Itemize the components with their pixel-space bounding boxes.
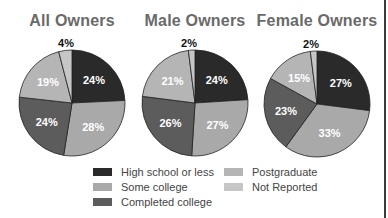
slice-label-completed-college: 26%: [159, 117, 181, 129]
slice-label-postgraduate: 15%: [288, 72, 310, 84]
slice-label-postgraduate: 19%: [37, 76, 59, 88]
legend-label: Postgraduate: [252, 166, 317, 178]
slice-label-completed-college: 23%: [275, 105, 297, 117]
legend-swatch: [93, 198, 112, 206]
legend-item-not-reported: Not Reported: [224, 181, 317, 193]
legend-label: Not Reported: [252, 181, 317, 193]
legend-swatch: [93, 168, 112, 176]
slice-label-not-reported: 2%: [181, 37, 197, 49]
legend-swatch: [224, 183, 243, 191]
pie-female-owners: 27%33%23%15%2%: [264, 38, 370, 157]
legend-item-some-college: Some college: [93, 181, 188, 193]
slice-label-not-reported: 2%: [303, 38, 319, 50]
legend-swatch: [93, 183, 112, 191]
slice-label-high-school: 27%: [330, 77, 352, 89]
slice-label-postgraduate: 21%: [161, 75, 183, 87]
pie-all-owners: 24%28%24%19%4%: [19, 37, 125, 156]
legend-label: High school or less: [121, 166, 214, 178]
legend-item-completed-college: Completed college: [93, 196, 212, 208]
legend-label: Some college: [121, 181, 188, 193]
pie-charts: 24%28%24%19%4% 24%27%26%21%2% 27%33%23%1…: [0, 0, 388, 218]
pie-male-owners: 24%27%26%21%2%: [142, 37, 248, 156]
slice-label-some-college: 27%: [206, 119, 228, 131]
legend-item-postgraduate: Postgraduate: [224, 166, 317, 178]
slice-label-high-school: 24%: [206, 74, 228, 86]
slice-label-high-school: 24%: [83, 74, 105, 86]
slice-label-completed-college: 24%: [36, 116, 58, 128]
legend-swatch: [224, 168, 243, 176]
slice-label-not-reported: 4%: [58, 37, 74, 49]
legend-item-high-school: High school or less: [93, 166, 214, 178]
slice-label-some-college: 33%: [319, 127, 341, 139]
slice-label-some-college: 28%: [82, 121, 104, 133]
legend-label: Completed college: [121, 196, 212, 208]
